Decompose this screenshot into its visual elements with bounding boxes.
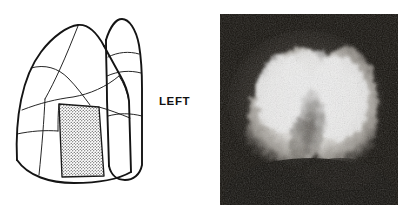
lung-scintigraphy-scan	[220, 14, 398, 205]
side-label: LEFT	[159, 94, 190, 108]
figure-root: LEFT	[0, 0, 417, 219]
lung-diagram-panel	[0, 0, 200, 219]
scan-vignette	[220, 14, 398, 205]
lung-segment-diagram	[0, 0, 200, 219]
lung-scan-panel	[220, 14, 398, 205]
